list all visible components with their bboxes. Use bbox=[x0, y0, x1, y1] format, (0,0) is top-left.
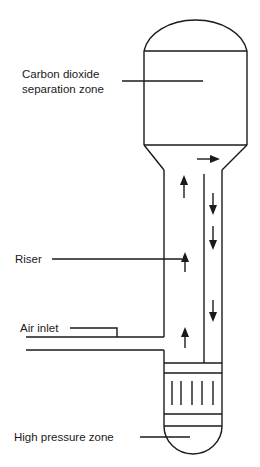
co2-label-line1: Carbon dioxide bbox=[22, 68, 99, 80]
arrow-down-icon bbox=[209, 193, 217, 215]
arrow-right-icon bbox=[197, 155, 220, 163]
air-inlet-leader-line bbox=[70, 328, 117, 337]
separation-vessel bbox=[144, 20, 247, 170]
label-air-inlet: Air inlet bbox=[20, 322, 117, 337]
flow-arrows bbox=[180, 155, 220, 348]
reactor-diagram: Carbon dioxide separation zone Riser Air… bbox=[0, 0, 260, 467]
arrow-down-icon bbox=[209, 226, 217, 250]
arrow-down-icon bbox=[209, 300, 217, 322]
arrow-up-icon bbox=[181, 252, 189, 272]
bottom-dome bbox=[164, 426, 222, 454]
co2-label-line2: separation zone bbox=[22, 83, 104, 95]
air-inlet-pipe bbox=[26, 337, 164, 426]
label-riser: Riser bbox=[15, 253, 182, 265]
cone-left bbox=[144, 145, 164, 170]
sparger-section bbox=[164, 363, 222, 454]
air-inlet-label: Air inlet bbox=[20, 322, 59, 334]
arrow-up-icon bbox=[181, 327, 189, 348]
high-pressure-label: High pressure zone bbox=[14, 431, 114, 443]
top-dome bbox=[144, 20, 247, 51]
cone-right bbox=[222, 145, 247, 170]
arrow-up-icon bbox=[180, 175, 188, 198]
label-co2-separation-zone: Carbon dioxide separation zone bbox=[22, 68, 203, 95]
label-high-pressure-zone: High pressure zone bbox=[14, 431, 190, 443]
riser-label: Riser bbox=[15, 253, 42, 265]
